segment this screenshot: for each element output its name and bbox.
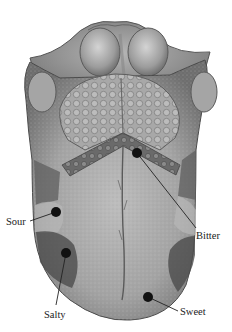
label-bitter: Bitter xyxy=(196,231,220,242)
tongue-illustration xyxy=(0,0,232,332)
label-salty: Salty xyxy=(44,310,66,321)
label-sour: Sour xyxy=(6,217,26,228)
label-sweet: Sweet xyxy=(180,307,206,318)
